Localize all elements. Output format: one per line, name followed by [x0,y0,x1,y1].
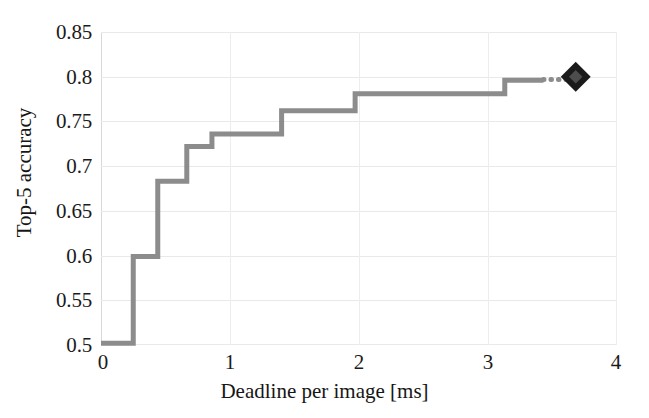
x-tick-label: 1 [225,350,236,375]
chart-figure: 0.85 0.8 0.75 0.7 0.65 0.6 0.55 0.5 0 1 … [0,0,649,418]
y-axis-title: Top-5 accuracy [12,23,37,323]
diamond-marker [561,62,591,92]
x-tick-label: 2 [354,350,365,375]
plot-area [101,32,617,345]
x-tick-label: 4 [611,350,622,375]
step-line-series [101,80,543,343]
x-tick-label: 0 [98,350,109,375]
x-axis-title: Deadline per image [ms] [0,379,649,404]
step-curve-svg [101,32,617,345]
x-tick-label: 3 [483,350,494,375]
